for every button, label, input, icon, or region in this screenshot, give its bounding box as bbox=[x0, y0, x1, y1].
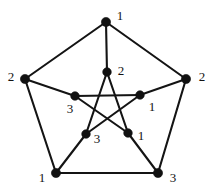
graph-vertex bbox=[124, 129, 133, 138]
graph-vertex bbox=[103, 68, 112, 77]
vertex-color-label: 3 bbox=[67, 102, 74, 115]
graph-vertex bbox=[82, 130, 91, 139]
graph-edge bbox=[140, 79, 186, 95]
graph-vertex bbox=[51, 168, 60, 177]
graph-vertex bbox=[101, 17, 110, 26]
vertex-color-label: 3 bbox=[94, 132, 101, 145]
edge-layer bbox=[25, 22, 186, 173]
graph-vertex bbox=[71, 92, 80, 101]
vertex-color-label: 2 bbox=[118, 64, 125, 77]
graph-edge bbox=[75, 96, 128, 133]
graph-edge bbox=[86, 72, 107, 134]
graph-edge bbox=[86, 95, 140, 134]
graph-canvas bbox=[0, 0, 217, 192]
graph-vertex bbox=[136, 91, 145, 100]
graph-figure: 1231221133 bbox=[0, 0, 217, 192]
graph-edge bbox=[75, 95, 140, 96]
vertex-color-label: 1 bbox=[117, 9, 124, 22]
graph-edge bbox=[56, 134, 86, 173]
graph-edge bbox=[107, 72, 128, 133]
graph-edge bbox=[25, 79, 56, 173]
vertex-color-label: 3 bbox=[170, 171, 177, 184]
vertex-color-label: 2 bbox=[8, 70, 15, 83]
vertex-color-label: 2 bbox=[199, 70, 206, 83]
graph-edge bbox=[25, 79, 75, 96]
vertex-color-label: 1 bbox=[149, 100, 156, 113]
vertex-color-label: 1 bbox=[138, 129, 145, 142]
graph-edge bbox=[106, 22, 107, 72]
graph-vertex bbox=[153, 168, 162, 177]
graph-edge bbox=[158, 79, 186, 173]
graph-edge bbox=[25, 22, 106, 79]
graph-vertex bbox=[181, 74, 190, 83]
vertex-color-label: 1 bbox=[39, 171, 46, 184]
graph-vertex bbox=[20, 74, 29, 83]
